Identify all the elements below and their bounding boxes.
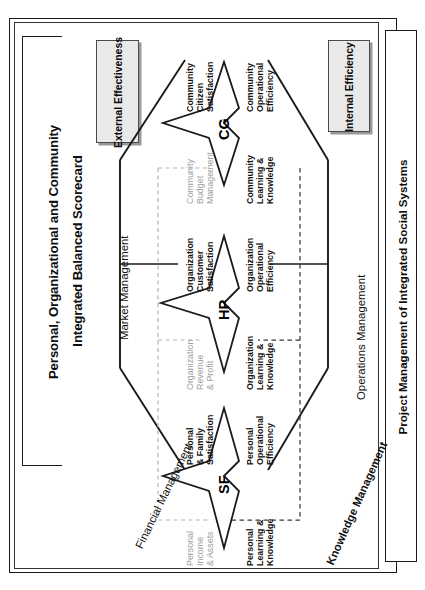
metric-organization-learning-knowledge: Organization Learning & Knowledge (246, 336, 276, 390)
metric-organization-revenue-profit: Organization Revenue & Profit (186, 340, 216, 390)
diagram-root: Personal, Organizational and Community I… (0, 0, 425, 590)
edge-label-operations-management: Operations Management (355, 275, 367, 400)
metric-community-budget-management: Community Budget Management (186, 152, 216, 204)
metric-personal-learning-knowledge: Personal Learning & Knowledge (246, 519, 276, 566)
metric-community-operational-efficiency: Community Operational Efficiency (246, 63, 276, 112)
metric-organization-customer-satisfaction: Organization Customer Satisfaction (186, 238, 216, 292)
metric-community-learning-knowledge: Community Learning & Knowledge (246, 155, 276, 204)
metric-community-citizen-satisfaction: Community Citizen Satisfaction (186, 62, 216, 112)
star-abbr-organization: HP (216, 300, 232, 320)
metric-personal-income-assets: Personal Income & Assets (186, 531, 216, 566)
metric-personal-family-satisfaction: Personal & Family Satisfaction (186, 415, 216, 465)
edge-label-market-management: Market Management (118, 236, 130, 340)
metric-organization-operational-efficiency: Organization Operational Efficiency (246, 238, 276, 292)
star-abbr-community: CG (216, 118, 232, 140)
metric-personal-operational-efficiency: Personal Operational Efficiency (246, 416, 276, 465)
star-abbr-personal: SF (216, 475, 232, 494)
